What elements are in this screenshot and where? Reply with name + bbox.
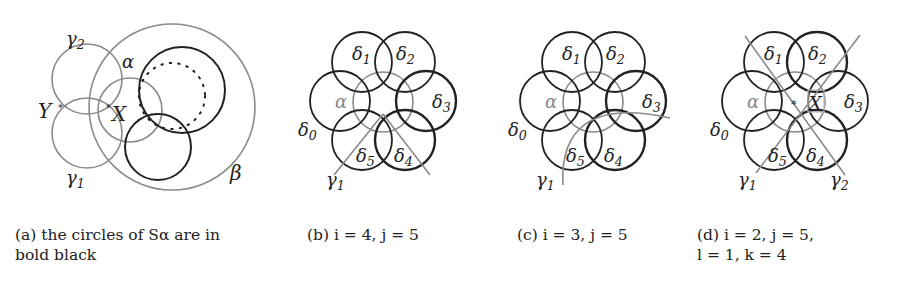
- label-delta2: δ2: [606, 43, 625, 67]
- label-gamma2: γ2: [830, 169, 849, 193]
- panel-a-diagram: * * γ2 γ1 α β Y X: [0, 0, 260, 210]
- label-delta0: δ0: [508, 119, 527, 143]
- label-alpha: α: [122, 51, 134, 72]
- label-gamma1: γ1: [326, 169, 345, 193]
- label-delta4: δ4: [806, 145, 825, 169]
- label-delta0: δ0: [298, 119, 317, 143]
- label-gamma1: γ1: [738, 169, 757, 193]
- label-delta1: δ1: [764, 43, 783, 67]
- label-delta5: δ5: [566, 145, 585, 169]
- label-delta3: δ3: [432, 91, 451, 115]
- label-delta5: δ5: [356, 145, 375, 169]
- label-delta0: δ0: [710, 119, 729, 143]
- panel-b: δ1 δ2 δ3 δ4 δ5 δ0 α γ1 (b) i = 4, j = 5: [260, 0, 470, 210]
- label-x: X: [110, 102, 127, 126]
- caption-b: (b) i = 4, j = 5: [307, 225, 419, 245]
- label-delta3: δ3: [844, 91, 863, 115]
- panel-a: * * γ2 γ1 α β Y X (a) the circles of Sα …: [0, 0, 260, 210]
- label-delta1: δ1: [352, 43, 371, 67]
- label-delta2: δ2: [808, 43, 827, 67]
- point-y-marker: *: [58, 102, 63, 113]
- point-marker: *: [791, 98, 797, 111]
- caption-a: (a) the circles of Sα are in bold black: [15, 225, 265, 265]
- label-gamma1: γ1: [66, 167, 85, 191]
- label-delta3: δ3: [642, 91, 661, 115]
- panel-c: δ1 δ2 δ3 δ4 δ5 δ0 α γ1 (c) i = 3, j = 5: [470, 0, 680, 210]
- circle-dotted: [139, 63, 205, 129]
- circle-bold-1: [139, 47, 225, 133]
- caption-d: (d) i = 2, j = 5, l = 1, k = 4: [697, 225, 907, 265]
- label-gamma1: γ1: [536, 169, 555, 193]
- point-x-marker: *: [106, 102, 111, 113]
- label-delta1: δ1: [562, 43, 581, 67]
- label-alpha: α: [545, 91, 557, 112]
- label-delta4: δ4: [604, 145, 623, 169]
- label-delta2: δ2: [396, 43, 415, 67]
- label-delta5: δ5: [768, 145, 787, 169]
- panel-d-diagram: * δ1 δ2 δ3 δ4 δ5 δ0 α X γ1 γ2: [680, 0, 907, 210]
- label-y: Y: [38, 99, 53, 123]
- panel-c-diagram: δ1 δ2 δ3 δ4 δ5 δ0 α γ1: [470, 0, 680, 210]
- label-alpha: α: [335, 91, 347, 112]
- panel-d: * δ1 δ2 δ3 δ4 δ5 δ0 α X γ1 γ2 (d) i = 2,…: [680, 0, 907, 210]
- label-x: X: [807, 93, 823, 114]
- label-alpha: α: [747, 91, 759, 112]
- label-beta: β: [229, 161, 242, 185]
- label-gamma2: γ2: [66, 28, 85, 52]
- caption-c: (c) i = 3, j = 5: [517, 225, 628, 245]
- panel-b-diagram: δ1 δ2 δ3 δ4 δ5 δ0 α γ1: [260, 0, 470, 210]
